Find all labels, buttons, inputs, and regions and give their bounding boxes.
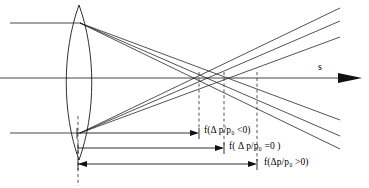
- upper-ray-to-focus-zero: [80, 23, 340, 136]
- label-focal-negative: f(Δ p/p₀ <0): [204, 126, 251, 136]
- lower-ray-to-focus-negative: [80, 8, 340, 133]
- label-focal-positive: f(Δp/p₀ >0): [264, 158, 309, 168]
- measurement-negative: [77, 128, 199, 139]
- biconvex-lens: [66, 5, 92, 160]
- label-focal-zero: f( Δ p/p₀ =0 ): [229, 142, 281, 152]
- measurement-zero: [78, 143, 224, 154]
- axis-arrowhead: [338, 73, 362, 83]
- lower-ray-to-focus-positive: [80, 37, 340, 133]
- axis-label-s: s: [318, 61, 322, 72]
- optical-axis: [0, 73, 362, 83]
- measure-positive-left-arrowhead: [78, 161, 87, 167]
- measure-positive-arrowhead: [248, 161, 257, 167]
- measure-negative-arrowhead: [190, 130, 199, 136]
- lower-ray-fan: [80, 8, 340, 133]
- optics-diagram: s f(Δ p/p₀ <0) f( Δ p/p₀ =0 ) f(Δp/p₀ >0…: [0, 0, 369, 188]
- measurement-positive: [78, 159, 257, 170]
- diagram-canvas: [0, 0, 369, 188]
- lens-right-surface: [79, 5, 92, 160]
- measure-zero-arrowhead: [215, 145, 224, 151]
